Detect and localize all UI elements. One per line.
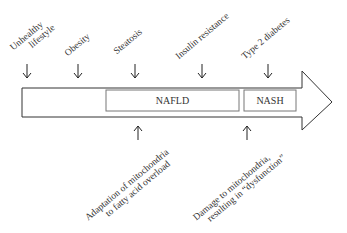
down-arrow-icon	[23, 64, 31, 78]
down-arrow-icon	[74, 64, 82, 78]
nafld-label: NAFLD	[106, 95, 239, 106]
down-arrow-icon	[264, 64, 272, 78]
down-arrow-icon	[198, 64, 206, 78]
nash-label: NASH	[244, 95, 296, 106]
up-arrow-icon	[243, 126, 251, 140]
progression-diagram	[0, 0, 347, 233]
up-arrow-icon	[134, 126, 142, 140]
down-arrow-icon	[131, 64, 139, 78]
